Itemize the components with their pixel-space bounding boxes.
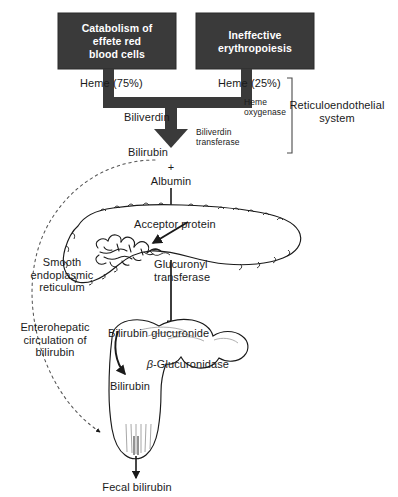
biliverdin-label: Biliverdin (124, 111, 170, 124)
beta-glucuronidase-label: β-Glucuronidase (134, 345, 229, 383)
albumin-label: Albumin (151, 175, 191, 188)
enterohepatic-circulation-label: Enterohepatic circulation of bilirubin (20, 321, 89, 359)
reticuloendothelial-system-label: Reticuloendothelial system (290, 99, 385, 124)
smooth-er-label: Smooth endoplasmic reticulum (31, 256, 94, 294)
glucuronyl-transferase-label: Glucuronyl transferase (154, 258, 210, 283)
right-source-box-label: Ineffective erythropoiesis (218, 29, 292, 55)
diagram-canvas: Catabolism of effete red blood cells Ine… (0, 0, 398, 497)
plus-sign-label: + (168, 161, 175, 174)
fecal-bilirubin-label: Fecal bilirubin (102, 481, 171, 494)
left-heme-yield-label: Heme (75%) (80, 77, 143, 90)
acceptor-protein-label: Acceptor protein (134, 218, 216, 231)
heme-oxygenase-label: Heme oxygenase (244, 98, 286, 117)
right-heme-yield-label: Heme (25%) (218, 77, 281, 90)
bilirubin-plasma-label: Bilirubin (128, 146, 168, 159)
bilirubin-glucuronide-label: Bilirubin glucuronide (108, 327, 209, 340)
glucuronidase-text: -Glucuronidase (153, 358, 229, 370)
left-source-box-label: Catabolism of effete red blood cells (82, 22, 153, 61)
pathway-graphics (0, 0, 398, 497)
biliverdin-transferase-label: Biliverdin transferase (196, 128, 240, 147)
bilirubin-gut-label: Bilirubin (110, 380, 150, 393)
